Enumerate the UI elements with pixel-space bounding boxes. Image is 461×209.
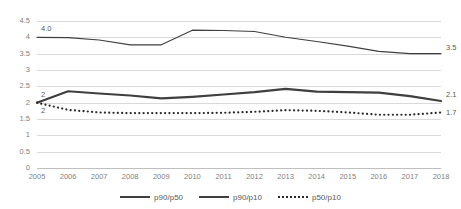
series-line-p50-p10 — [37, 103, 441, 115]
x-axis-tick-label: 2007 — [82, 172, 116, 181]
x-axis-tick-label: 2013 — [269, 172, 303, 181]
x-axis-tick-label: 2014 — [300, 172, 334, 181]
data-point-label: 2 — [41, 107, 45, 115]
data-point-label: 4.0 — [41, 25, 51, 33]
legend-label: p90/p50 — [154, 193, 183, 202]
y-axis-tick-label: 4.5 — [4, 17, 30, 25]
y-axis-tick-label: 2.5 — [4, 82, 30, 90]
series-line-p90-p50 — [37, 89, 441, 103]
y-axis-tick-label: 1 — [4, 131, 30, 139]
x-axis-tick-label: 2010 — [175, 172, 209, 181]
x-axis-tick-label: 2011 — [207, 172, 241, 181]
x-axis-tick-label: 2008 — [113, 172, 147, 181]
x-axis-tick-label: 2005 — [20, 172, 54, 181]
y-axis-tick-label: 3.5 — [4, 50, 30, 58]
chart-legend: p90/p50 p90/p10 p50/p10 — [0, 188, 461, 206]
y-axis-tick-label: 4 — [4, 33, 30, 41]
legend-label: p90/p10 — [233, 193, 262, 202]
legend-line-swatch-icon — [199, 192, 229, 202]
data-point-label: 3.5 — [446, 44, 456, 52]
data-point-label: 2.1 — [446, 91, 456, 99]
legend-dotted-swatch-icon — [278, 192, 308, 202]
legend-item-p90-p10[interactable]: p90/p10 — [199, 192, 262, 202]
y-axis-tick-label: 0 — [4, 164, 30, 172]
y-axis-tick-label: 2 — [4, 99, 30, 107]
series-line-p90-p10 — [37, 30, 441, 54]
x-axis-tick-label: 2016 — [362, 172, 396, 181]
line-chart: 00.511.522.533.544.5 4.03.522.121.7 2005… — [0, 0, 461, 209]
data-point-label: 1.7 — [446, 109, 456, 117]
legend-label: p50/p10 — [312, 193, 341, 202]
legend-line-swatch-icon — [120, 192, 150, 202]
data-point-label: 2 — [41, 91, 45, 99]
y-axis-tick-label: 0.5 — [4, 148, 30, 156]
x-axis-tick-label: 2018 — [424, 172, 458, 181]
legend-item-p50-p10[interactable]: p50/p10 — [278, 192, 341, 202]
x-axis-tick-label: 2006 — [51, 172, 85, 181]
y-axis-tick-label: 3 — [4, 66, 30, 74]
legend-item-p90-p50[interactable]: p90/p50 — [120, 192, 183, 202]
x-axis-tick-label: 2009 — [144, 172, 178, 181]
series-lines — [37, 21, 441, 168]
x-axis-tick-label: 2017 — [393, 172, 427, 181]
y-axis-tick-label: 1.5 — [4, 115, 30, 123]
x-axis-tick-label: 2015 — [331, 172, 365, 181]
x-axis-tick-labels: 2005200620072008200920102011201220132014… — [37, 170, 441, 184]
gridline — [37, 168, 441, 169]
x-axis-tick-label: 2012 — [238, 172, 272, 181]
